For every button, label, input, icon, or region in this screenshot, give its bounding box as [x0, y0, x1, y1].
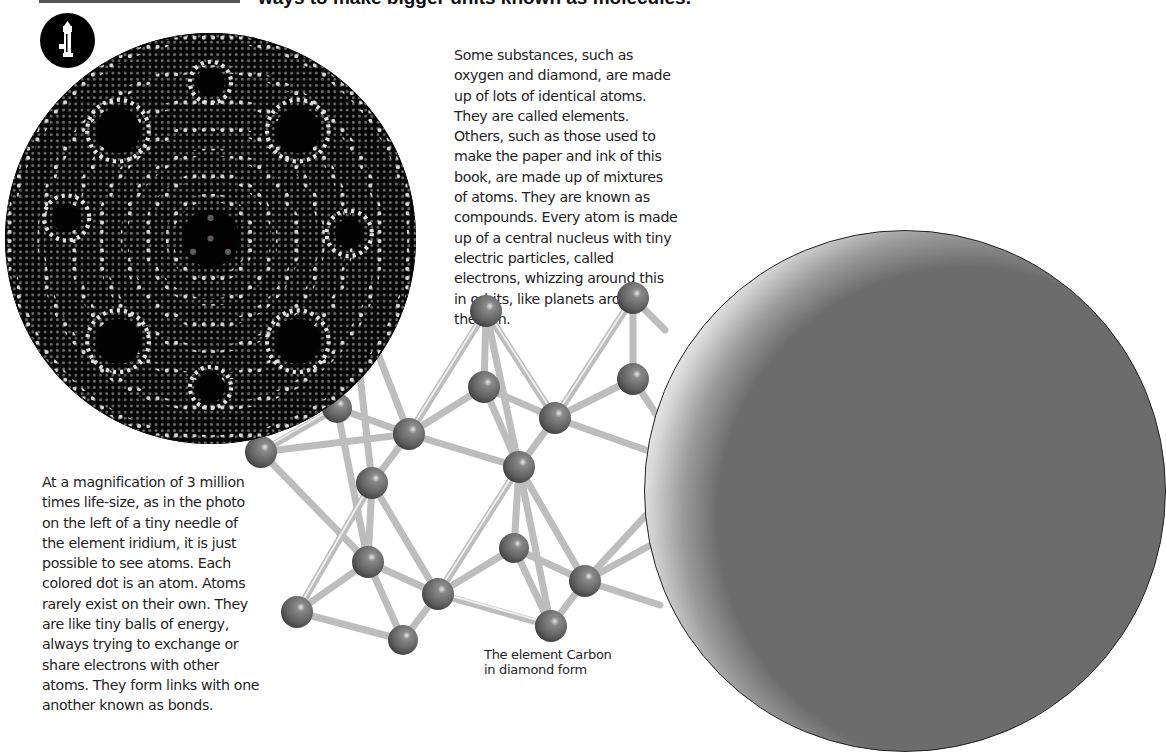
grey-surface-photo: [644, 230, 1166, 752]
microscope-badge: [40, 13, 95, 68]
iridium-atom-photo: [5, 33, 416, 444]
microscope-icon: [40, 13, 95, 68]
